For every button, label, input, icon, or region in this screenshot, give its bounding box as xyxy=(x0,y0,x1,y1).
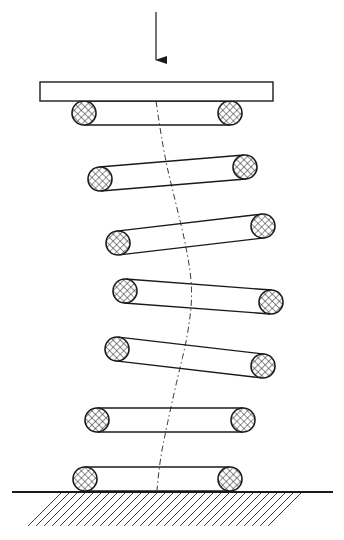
hatch-line xyxy=(172,493,205,526)
wire-section-left xyxy=(72,101,96,125)
spring-coils xyxy=(72,101,283,491)
hatch-line xyxy=(188,493,221,526)
wire-section-right xyxy=(259,290,283,314)
top-load-plate xyxy=(40,82,273,101)
coil-edge-bottom xyxy=(116,361,262,378)
coil-edge-top xyxy=(118,337,264,354)
hatch-line xyxy=(260,493,293,526)
wire-section-right xyxy=(251,354,275,378)
wire-section-left xyxy=(105,337,129,361)
hatch-line xyxy=(140,493,173,526)
coil-2 xyxy=(88,155,257,191)
hatch-line xyxy=(108,493,141,526)
hatch-line xyxy=(52,493,85,526)
wire-section-right xyxy=(218,101,242,125)
hatch-line xyxy=(132,493,165,526)
hatch-line xyxy=(212,493,245,526)
hatch-line xyxy=(252,493,285,526)
hatch-line xyxy=(60,493,93,526)
wire-section-right xyxy=(218,467,242,491)
hatch-line xyxy=(68,493,101,526)
hatch-line xyxy=(228,493,261,526)
ground-hatching xyxy=(28,493,301,526)
plate-rect xyxy=(40,82,273,101)
coil-edge-bottom xyxy=(124,303,270,314)
hatch-line xyxy=(204,493,237,526)
wire-section-right xyxy=(251,214,275,238)
wire-section-left xyxy=(73,467,97,491)
coil-edge-bottom xyxy=(119,238,264,255)
coil-edge-top xyxy=(117,214,262,231)
wire-section-left xyxy=(85,408,109,432)
spring-diagram xyxy=(0,0,344,540)
hatch-line xyxy=(180,493,213,526)
hatch-line xyxy=(236,493,269,526)
hatch-line xyxy=(156,493,189,526)
hatch-line xyxy=(84,493,117,526)
hatch-line xyxy=(244,493,277,526)
hatch-line xyxy=(164,493,197,526)
hatch-line xyxy=(76,493,109,526)
coil-3 xyxy=(106,214,275,255)
coil-5 xyxy=(105,337,275,378)
wire-section-left xyxy=(88,167,112,191)
hatch-line xyxy=(36,493,69,526)
coil-4 xyxy=(113,279,283,314)
hatch-line xyxy=(44,493,77,526)
wire-section-right xyxy=(233,155,257,179)
hatch-line xyxy=(220,493,253,526)
wire-section-left xyxy=(113,279,137,303)
coil-edge-top xyxy=(126,279,272,290)
coil-edge-top xyxy=(99,155,244,167)
wire-section-left xyxy=(106,231,130,255)
hatch-line xyxy=(196,493,229,526)
hatch-line xyxy=(28,493,61,526)
hatch-line xyxy=(100,493,133,526)
hatch-line xyxy=(268,493,301,526)
hatch-line xyxy=(92,493,125,526)
wire-section-right xyxy=(231,408,255,432)
hatch-line xyxy=(124,493,157,526)
hatch-line xyxy=(148,493,181,526)
coil-edge-bottom xyxy=(101,179,246,191)
hatch-line xyxy=(116,493,149,526)
ground-support xyxy=(12,492,333,526)
